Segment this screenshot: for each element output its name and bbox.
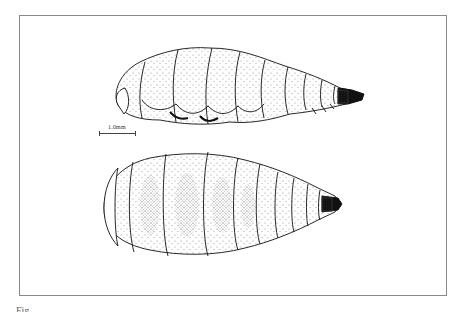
- scale-bar: 1.0mm: [99, 124, 139, 138]
- larva-dorsal-view: [104, 152, 342, 256]
- scale-bar-label: 1.0mm: [108, 124, 126, 130]
- larva-illustration: [0, 0, 465, 312]
- figure-caption: Fig. ...: [16, 304, 42, 312]
- scale-bar-line: [99, 133, 136, 134]
- larva-lateral-view: [116, 48, 364, 125]
